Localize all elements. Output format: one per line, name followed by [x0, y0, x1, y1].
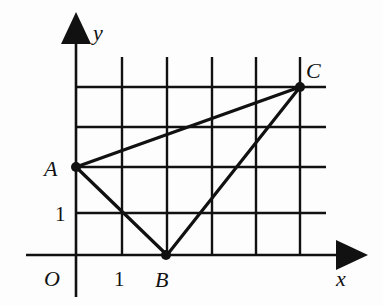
diagram-canvas: A B C O x y 1 1: [0, 0, 383, 305]
grid-horizontal-lines: [76, 87, 326, 213]
label-b: B: [155, 267, 168, 292]
label-c: C: [306, 58, 321, 83]
point-b: [161, 250, 171, 260]
coordinate-diagram: A B C O x y 1 1: [0, 0, 383, 305]
label-x-axis: x: [335, 266, 346, 291]
label-origin: O: [44, 266, 60, 291]
tick-label-x1: 1: [114, 267, 125, 291]
label-a: A: [42, 156, 58, 181]
tick-label-y1: 1: [55, 202, 66, 226]
y-axis-arrow-icon: [61, 12, 91, 44]
point-c: [295, 82, 305, 92]
triangle-abc: [76, 87, 300, 255]
point-a: [71, 162, 81, 172]
label-y-axis: y: [91, 20, 103, 45]
